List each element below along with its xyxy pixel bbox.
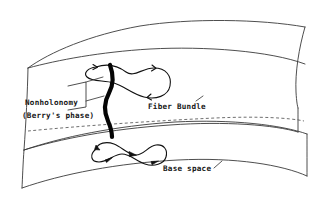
base-space-loop-arrow-lower (105, 158, 113, 163)
label-berrys-phase: (Berry's phase) (22, 112, 94, 120)
base-space-loop (92, 143, 167, 166)
fiber-bundle-loop (86, 65, 171, 101)
fiber-bundle-diagram: Nonholonomy (Berry's phase) Fiber Bundle… (0, 0, 323, 205)
fiber-bundle-loop-arrow-bottom (147, 94, 152, 100)
base-space-left-edge (22, 150, 24, 188)
base-space-surface (22, 121, 307, 188)
base-space-loop-arrow-upper (129, 152, 137, 157)
bracket-lower-leader (86, 96, 104, 101)
fiber-bundle-right-edge (296, 27, 305, 108)
fiber-bundle-left-edge (24, 68, 28, 150)
label-nonholonomy: Nonholonomy (25, 99, 78, 107)
fiber-bundle-front-edge (28, 48, 305, 68)
fiber-bundle-surface (24, 20, 305, 150)
fiber-bundle-bottom-edge (24, 123, 298, 150)
label-base-space: Base space (163, 165, 211, 173)
fiber-bundle-label-leader (196, 96, 203, 101)
fiber-curve (105, 65, 113, 137)
base-space-label-leader (214, 161, 222, 168)
label-fiber-bundle: Fiber Bundle (148, 103, 206, 111)
fiber-bundle-top-edge (28, 20, 305, 68)
fiber-bundle-loop-path (86, 65, 171, 98)
